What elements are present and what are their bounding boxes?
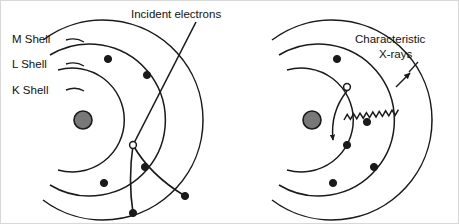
electron-dot — [370, 163, 377, 170]
electron-dot — [329, 179, 336, 186]
vacancy-icon — [130, 142, 137, 149]
left-panel — [43, 20, 203, 220]
electron-dot — [363, 118, 370, 125]
k-shell-leader — [66, 88, 84, 91]
electron-dot — [141, 163, 148, 170]
l-shell-leader — [66, 63, 84, 66]
right-l-shell-arc — [279, 44, 394, 196]
electron-transition-arrow — [333, 91, 347, 140]
m-shell-label: M Shell — [12, 33, 50, 46]
xray-arrow — [396, 73, 410, 87]
incident-ray-1 — [133, 145, 185, 196]
electron-dot — [143, 71, 150, 78]
diagram-canvas: Incident electrons Characteristic X-rays… — [0, 0, 459, 224]
electron-dot — [104, 55, 111, 62]
left-l-shell-arc — [50, 44, 165, 196]
electron-dot — [343, 141, 350, 148]
characteristic-xrays-label-line1: Characteristic — [355, 33, 425, 46]
m-shell-leader — [66, 39, 84, 42]
characteristic-xrays-label-line2: X-rays — [379, 48, 412, 61]
electron-dot — [100, 179, 107, 186]
incident-ray-2 — [131, 145, 134, 213]
electron-dot — [129, 209, 136, 216]
electron-dot — [333, 55, 340, 62]
nucleus-icon — [303, 111, 321, 129]
nucleus-icon — [74, 111, 92, 129]
vacancy-icon — [344, 84, 351, 91]
left-m-shell-arc — [43, 20, 203, 220]
electron-dot — [181, 192, 188, 199]
k-shell-label: K Shell — [12, 84, 48, 97]
l-shell-label: L Shell — [12, 58, 47, 71]
incident-electrons-label: Incident electrons — [131, 8, 221, 21]
